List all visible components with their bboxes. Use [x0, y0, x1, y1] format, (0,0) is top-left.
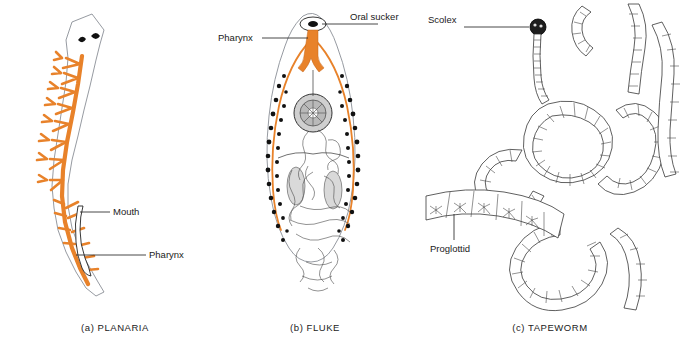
- tapeworm-proglottid-chain: [474, 4, 680, 311]
- label-pharynx: Pharynx: [149, 249, 184, 260]
- panel-fluke: Pharynx Oral sucker (b) FLUKE: [200, 0, 430, 353]
- caption-fluke: (b) FLUKE: [200, 322, 430, 333]
- panel-planaria: Mouth Pharynx (a) PLANARIA: [0, 0, 230, 353]
- label-scolex: Scolex: [428, 14, 457, 25]
- label-proglottid: Proglottid: [430, 243, 470, 254]
- caption-planaria: (a) PLANARIA: [0, 322, 230, 333]
- label-oral-sucker: Oral sucker: [350, 11, 399, 22]
- tapeworm-scolex: [530, 19, 546, 35]
- fluke-testis-right: [324, 171, 342, 209]
- tapeworm-drawing: Scolex Proglottid: [410, 0, 690, 320]
- panel-tapeworm: Scolex Proglottid (c) TAPEWORM: [410, 0, 690, 353]
- label-pharynx: Pharynx: [218, 32, 253, 43]
- tapeworm-neck: [533, 34, 549, 104]
- caption-tapeworm: (c) TAPEWORM: [410, 322, 690, 333]
- fluke-ventral-sucker: [294, 94, 332, 132]
- planaria-leaders: [76, 212, 146, 255]
- planaria-drawing: Mouth Pharynx: [0, 0, 230, 320]
- fluke-drawing: Pharynx Oral sucker: [200, 0, 430, 320]
- flatworm-comparison-figure: Mouth Pharynx (a) PLANARIA: [0, 0, 690, 353]
- fluke-oral-sucker-opening: [308, 21, 318, 27]
- label-mouth: Mouth: [113, 206, 139, 217]
